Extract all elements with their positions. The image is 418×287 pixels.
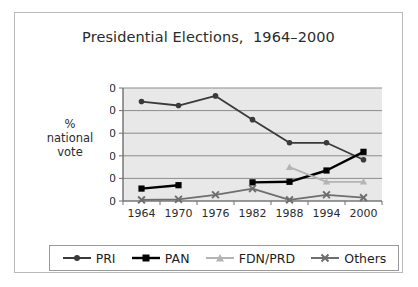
plot-area: 0204060801001964197019761982198819942000 xyxy=(110,75,386,227)
data-point xyxy=(250,117,256,123)
legend-item-pri[interactable]: PRI xyxy=(62,251,116,266)
y-axis-label: % national vote xyxy=(39,117,101,159)
legend-label-others: Others xyxy=(344,251,386,266)
y-tick-label: 0 xyxy=(110,195,116,208)
x-tick-label: 1988 xyxy=(276,207,304,220)
legend-key-fdn-prd-icon xyxy=(205,252,235,264)
data-point xyxy=(249,179,255,185)
legend-label-pan: PAN xyxy=(165,251,190,266)
data-point xyxy=(213,93,219,99)
data-point xyxy=(139,99,145,105)
y-tick-label: 20 xyxy=(110,172,116,185)
data-point xyxy=(323,167,329,173)
legend-item-fdn-prd[interactable]: FDN/PRD xyxy=(205,251,295,266)
data-point xyxy=(286,179,292,185)
y-tick-label: 40 xyxy=(110,150,116,163)
y-tick-label: 60 xyxy=(110,127,116,140)
data-point xyxy=(176,103,182,109)
x-tick-label: 1994 xyxy=(313,207,341,220)
legend-label-pri: PRI xyxy=(96,251,116,266)
x-tick-label: 1970 xyxy=(165,207,193,220)
y-axis-label-line-3: vote xyxy=(39,145,101,159)
chart-title: Presidential Elections, 1964–2000 xyxy=(15,29,402,45)
legend-item-others[interactable]: Others xyxy=(310,251,386,266)
chart-frame: Presidential Elections, 1964–2000 % nati… xyxy=(14,12,403,273)
y-axis-label-line-2: national xyxy=(39,131,101,145)
line-chart-svg: 0204060801001964197019761982198819942000 xyxy=(110,75,386,227)
data-point xyxy=(361,157,367,163)
x-tick-label: 1982 xyxy=(239,207,267,220)
data-point xyxy=(287,140,293,146)
y-tick-label: 100 xyxy=(110,82,116,95)
x-tick-label: 1976 xyxy=(202,207,230,220)
legend-item-pan[interactable]: PAN xyxy=(131,251,190,266)
y-axis-label-line-1: % xyxy=(39,117,101,131)
y-tick-label: 80 xyxy=(110,104,116,117)
legend-key-others-icon xyxy=(310,252,340,264)
x-tick-label: 1964 xyxy=(128,207,156,220)
data-point xyxy=(324,140,330,146)
legend-key-pri-icon xyxy=(62,252,92,264)
legend-label-fdn-prd: FDN/PRD xyxy=(239,251,295,266)
legend-key-pan-icon xyxy=(131,252,161,264)
chart-legend: PRI PAN FDN/PRD Others xyxy=(49,245,399,271)
data-point xyxy=(360,149,366,155)
data-point xyxy=(138,185,144,191)
x-tick-label: 2000 xyxy=(350,207,378,220)
data-point xyxy=(175,182,181,188)
